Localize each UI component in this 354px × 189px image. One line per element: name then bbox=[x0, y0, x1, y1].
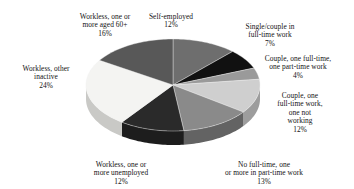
pie-label-workless-aged-60-plus-text: Workless, one or more aged 60+ bbox=[80, 12, 131, 30]
pie-label-couple-part-time-text: Couple, one full-time, one part-time wor… bbox=[265, 54, 331, 72]
pie-label-workless-other-inactive-value: 24% bbox=[2, 82, 90, 91]
pie-label-couple-not-working: Couple, one full-time work, one not work… bbox=[259, 83, 341, 143]
pie-label-workless-aged-60-plus-value: 16% bbox=[52, 30, 158, 39]
pie-label-no-full-time: No full-time, one or more in part-time w… bbox=[186, 152, 342, 189]
pie-label-workless-unemployed-text: Workless, one or more unemployed bbox=[94, 160, 148, 178]
pie-label-workless-aged-60-plus: Workless, one or more aged 60+ 16% bbox=[52, 4, 158, 47]
pie-label-workless-other-inactive-text: Workless, other inactive bbox=[23, 64, 70, 82]
pie-label-couple-not-working-text: Couple, one full-time work, one not work… bbox=[277, 91, 323, 126]
pie-label-couple-not-working-value: 12% bbox=[259, 126, 341, 135]
pie-label-single-couple-text: Single/couple in full-time work bbox=[245, 22, 294, 40]
pie-label-no-full-time-text: No full-time, one or more in part-time w… bbox=[225, 160, 303, 178]
pie-label-workless-unemployed: Workless, one or more unemployed 12% bbox=[62, 152, 180, 189]
pie-label-couple-part-time-value: 4% bbox=[244, 72, 352, 81]
pie-label-workless-unemployed-value: 12% bbox=[62, 178, 180, 187]
pie-label-no-full-time-value: 13% bbox=[186, 178, 342, 187]
pie-label-workless-other-inactive: Workless, other inactive 24% bbox=[2, 56, 90, 99]
pie-chart: Self-employed 12% Single/couple in full-… bbox=[0, 0, 354, 189]
